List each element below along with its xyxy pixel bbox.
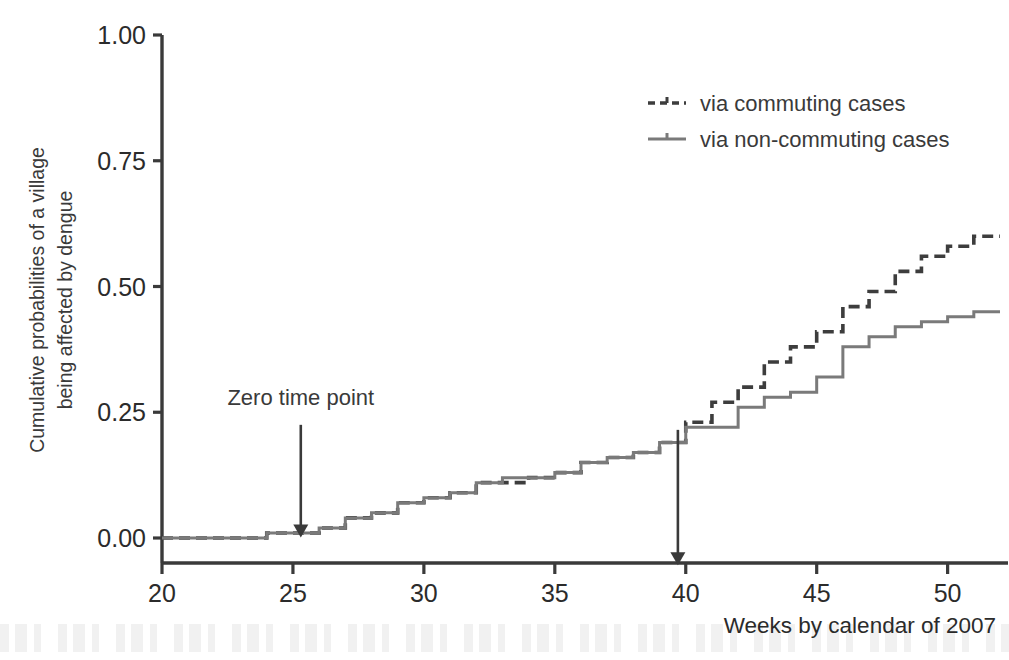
x-axis-tick-labels: 20253035404550 [148, 563, 961, 607]
y-axis-tick-label: 0.50 [97, 273, 146, 301]
annotation-label: Zero time point [227, 385, 374, 410]
annotation-layer: Zero time point [227, 385, 685, 565]
x-axis-tick-label: 30 [410, 579, 438, 607]
step-chart-canvas: Cumulative probabilities of a village be… [0, 0, 1009, 660]
x-axis-tick-label: 40 [672, 579, 700, 607]
x-axis-tick-label: 50 [934, 579, 962, 607]
y-axis-title-line2: being affected by dengue [54, 191, 76, 410]
chart-legend: via commuting casesvia non-commuting cas… [648, 91, 949, 152]
y-axis-tick-labels: 0.000.250.500.751.00 [97, 21, 162, 552]
y-axis-tick-label: 0.75 [97, 147, 146, 175]
legend-label: via commuting cases [700, 91, 905, 116]
series-line-non-commuting [162, 312, 1000, 538]
x-axis-tick-label: 20 [148, 579, 176, 607]
x-axis-tick-label: 35 [541, 579, 569, 607]
y-axis-title: Cumulative probabilities of a village be… [26, 147, 76, 453]
x-axis-title: Weeks by calendar of 2007 [724, 613, 996, 638]
x-axis-tick-label: 45 [803, 579, 831, 607]
y-axis-tick-label: 0.25 [97, 398, 146, 426]
y-axis-tick-label: 0.00 [97, 524, 146, 552]
y-axis-title-line1: Cumulative probabilities of a village [26, 147, 48, 453]
y-axis-tick-label: 1.00 [97, 21, 146, 49]
x-axis-tick-label: 25 [279, 579, 307, 607]
chart-figure: Cumulative probabilities of a village be… [0, 0, 1009, 660]
annotation-arrow-head [293, 524, 308, 537]
legend-label: via non-commuting cases [700, 127, 949, 152]
